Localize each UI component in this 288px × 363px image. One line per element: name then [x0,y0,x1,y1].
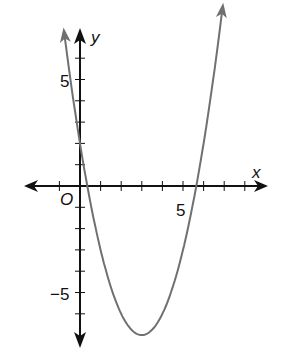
parabola-graph: x y O 5 5 −5 [0,0,288,363]
y-axis-label: y [90,28,101,47]
x-axis-label: x [251,163,261,182]
y-axis [74,28,86,348]
y-tick-label-neg5: −5 [50,285,69,304]
origin-label: O [60,190,73,209]
parabola-curve [65,11,223,335]
x-tick-label-5: 5 [176,201,185,220]
y-tick-label-5: 5 [60,72,69,91]
